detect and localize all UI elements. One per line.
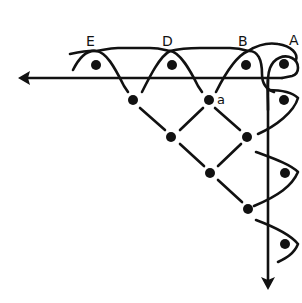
right-dot-3 [280,239,290,249]
lattice-dot [166,132,176,142]
lattice-dot [242,132,252,142]
right-dot-2 [280,168,290,178]
right-arch-2 [254,152,298,206]
dot-d [167,60,177,70]
lattice-lines [140,108,242,202]
stitch-diagram: E D B A a [0,0,302,303]
arch-d [142,51,202,92]
label-e: E [86,33,95,49]
right-arch-3 [256,220,298,262]
label-b: B [238,33,248,49]
label-lower-a: a [217,92,225,107]
dot-e [91,60,101,70]
label-d: D [162,33,173,49]
lattice-dot [243,204,253,214]
lattice-dot [205,168,215,178]
lattice-dot-a [204,95,214,105]
top-thread [70,43,296,60]
lattice-dot [128,95,138,105]
label-a: A [289,32,299,48]
dot-a [279,59,289,69]
dot-b [241,60,251,70]
right-dot-1 [279,95,289,105]
arch-b [216,51,274,92]
arch-e [73,51,128,92]
right-arch-1 [258,90,298,134]
